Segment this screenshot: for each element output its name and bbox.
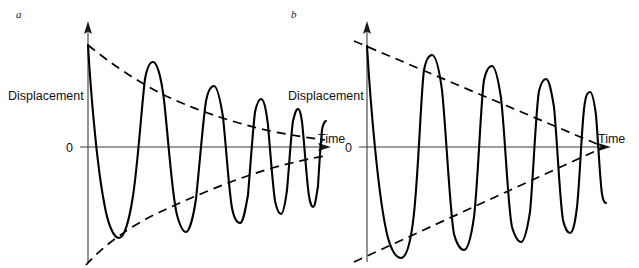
panel-b-y-axis-label: Displacement bbox=[288, 89, 364, 103]
panel-a-waveform bbox=[88, 45, 326, 238]
panel-a-origin-label: 0 bbox=[66, 141, 73, 155]
panel-a-y-axis-label: Displacement bbox=[8, 89, 84, 103]
panel-b-waveform bbox=[367, 46, 606, 258]
panel-a: a 0 Displacement Time bbox=[8, 8, 345, 265]
panel-b-upper-envelope bbox=[354, 41, 604, 147]
panel-b-origin-label: 0 bbox=[345, 141, 352, 155]
damped-oscillation-figure: a 0 Displacement Time b 0 Displacement T… bbox=[0, 0, 639, 268]
panel-a-letter: a bbox=[16, 8, 22, 20]
panel-b-letter: b bbox=[291, 8, 297, 20]
panel-b-x-axis-label: Time bbox=[598, 132, 625, 146]
